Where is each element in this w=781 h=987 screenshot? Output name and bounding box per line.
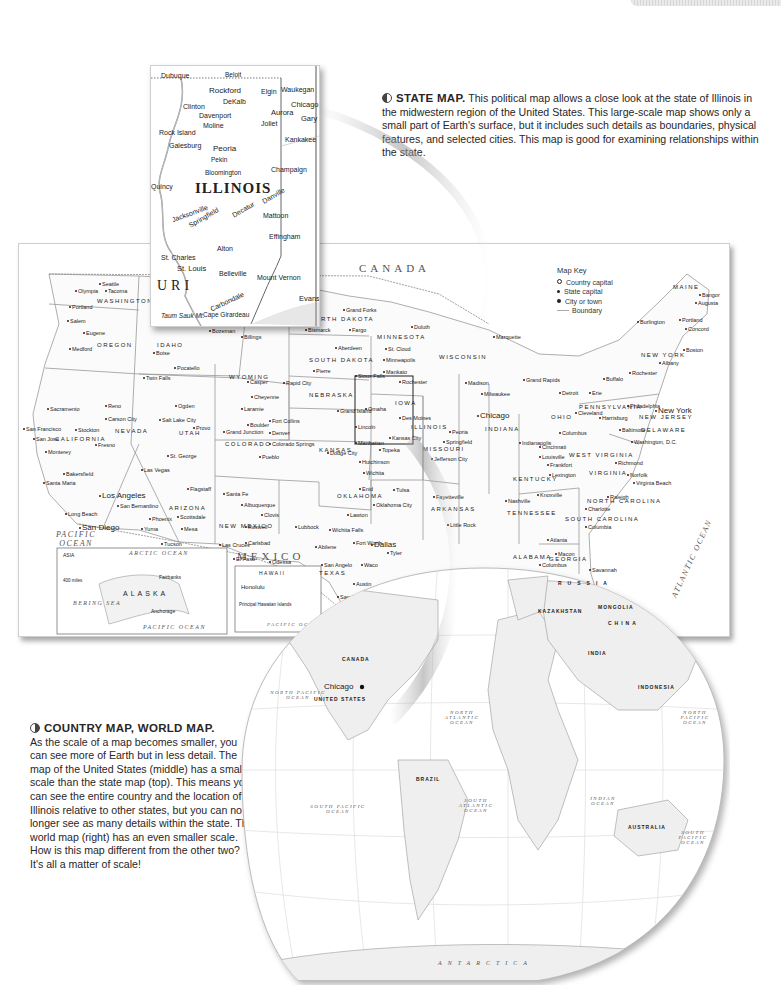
map-key: Map Key Country capital State capital Ci… xyxy=(557,266,613,316)
city-label: Albuquerque xyxy=(241,502,275,508)
city-dot-icon xyxy=(431,458,433,460)
city-label: Lawton xyxy=(347,512,368,518)
city-dot-icon xyxy=(247,424,249,426)
city-label: Flagstaff xyxy=(187,486,211,492)
city-label: Concord xyxy=(685,326,709,332)
city-label: Seattle xyxy=(99,281,119,287)
city-label: Colorado Springs xyxy=(269,441,315,447)
state-capital-icon xyxy=(557,290,560,293)
city-dot-icon xyxy=(23,428,25,430)
half-circle-icon xyxy=(30,723,40,733)
city-dot-icon xyxy=(187,488,189,490)
city-label: Eugene xyxy=(83,330,105,336)
city-label: Grand Forks xyxy=(343,307,377,313)
city-dot-icon xyxy=(117,505,119,507)
city-dot-icon xyxy=(387,552,389,554)
city-dot-icon xyxy=(355,442,357,444)
city-dot-icon xyxy=(505,500,507,502)
map-key-title: Map Key xyxy=(557,266,613,276)
city-dot-icon xyxy=(699,294,701,296)
city-label: Columbia xyxy=(585,524,611,530)
city-label: Raleigh xyxy=(607,494,629,500)
city-label: Santa Maria xyxy=(43,480,76,486)
city-label: Scottsdale xyxy=(177,514,206,520)
state-map-caption: STATE MAP. This political map allows a c… xyxy=(382,92,764,160)
state-label-tennessee: TENNESSEE xyxy=(507,510,557,516)
city-label: Portland xyxy=(69,304,93,310)
bering-sea-label: BERING SEA xyxy=(73,600,121,606)
illinois-state-map: Dubuque Beloit Rockford Elgin Waukegan D… xyxy=(150,65,320,327)
world-label-brazil: BRAZIL xyxy=(416,776,440,782)
city-dot-icon xyxy=(629,372,631,374)
city-label: Knoxville xyxy=(537,492,562,498)
city-label: Indianapolis xyxy=(519,440,551,446)
country-world-map-heading: COUNTRY MAP, WORLD MAP. xyxy=(44,722,215,734)
city-dot-icon xyxy=(523,379,525,381)
city-label: Phoenix xyxy=(149,516,172,522)
city-label: Portland xyxy=(679,317,703,323)
city-label: Rochester xyxy=(399,379,427,385)
world-label-china: CHINA xyxy=(608,620,639,626)
state-label-arizona: ARIZONA xyxy=(169,505,206,511)
city-label: Fargo xyxy=(349,327,366,333)
city-dot-icon xyxy=(153,352,155,354)
map-key-item-boundary: Boundary xyxy=(557,306,613,316)
city-label: Salt Lake City xyxy=(159,417,196,423)
city-label: Lexington xyxy=(549,472,576,478)
city-dot-icon xyxy=(75,290,77,292)
state-label-virginia: VIRGINIA xyxy=(589,470,627,476)
city-dot-icon xyxy=(105,418,107,420)
city-label: Pueblo xyxy=(259,454,279,460)
state-label-washington: WASHINGTON xyxy=(97,298,153,304)
city-label: Jefferson City xyxy=(431,456,468,462)
alaska-inset-pacific-ocean: PACIFIC OCEAN xyxy=(143,624,206,630)
city-label: Madison xyxy=(465,380,489,386)
city-dot-icon xyxy=(633,482,635,484)
state-label-minnesota: MINNESOTA xyxy=(377,334,426,340)
city-dot-icon xyxy=(167,455,169,457)
city-mount-vernon: Mount Vernon xyxy=(257,274,301,281)
city-dot-icon xyxy=(679,319,681,321)
city-alton: Alton xyxy=(217,245,233,252)
city-label: Hutchinson xyxy=(359,459,390,465)
city-belleville: Belleville xyxy=(219,270,247,277)
world-label-russia: RUSSIA xyxy=(558,580,613,586)
city-dot-icon xyxy=(393,489,395,491)
city-label: San Diego xyxy=(79,523,119,532)
city-champaign: Champaign xyxy=(271,166,307,173)
city-label: Lubbock xyxy=(295,524,319,530)
city-label: Twin Falls xyxy=(143,375,170,381)
city-label: St. Cloud xyxy=(385,346,411,352)
state-label-colorado: COLORADO xyxy=(225,441,271,447)
city-label: Frankfort xyxy=(547,462,572,468)
city-dot-icon xyxy=(149,518,151,520)
city-dot-icon xyxy=(631,441,633,443)
city-dot-icon xyxy=(79,527,81,529)
alaska-inset-arctic-ocean: ARCTIC OCEAN xyxy=(129,550,189,556)
city-label: Clovis xyxy=(261,512,279,518)
city-dot-icon xyxy=(589,392,591,394)
state-label-ohio: OHIO xyxy=(551,414,572,420)
city-label: Columbus xyxy=(559,430,587,436)
state-map-heading: STATE MAP. xyxy=(396,92,465,104)
city-label: Mankato xyxy=(383,369,407,375)
city-label: Marquette xyxy=(493,334,521,340)
city-label: Detroit xyxy=(559,390,578,396)
world-label-canada: CANADA xyxy=(342,656,370,662)
city-dot-icon xyxy=(33,438,35,440)
city-dot-icon xyxy=(261,514,263,516)
city-dot-icon xyxy=(251,396,253,398)
city-label: Wichita Falls xyxy=(329,527,363,533)
city-dot-icon xyxy=(353,542,355,544)
city-dot-icon xyxy=(343,309,345,311)
city-dot-icon xyxy=(655,410,657,412)
world-label-kazakhstan: KAZAKHSTAN xyxy=(538,608,582,614)
city-dot-icon xyxy=(433,496,435,498)
city-label: Long Beach xyxy=(65,511,97,517)
city-dot-icon xyxy=(335,347,337,349)
city-dot-icon xyxy=(619,429,621,431)
city-dot-icon xyxy=(465,382,467,384)
city-label: Duluth xyxy=(411,324,430,330)
city-label: Los Angeles xyxy=(99,491,146,500)
city-dot-icon xyxy=(174,367,176,369)
